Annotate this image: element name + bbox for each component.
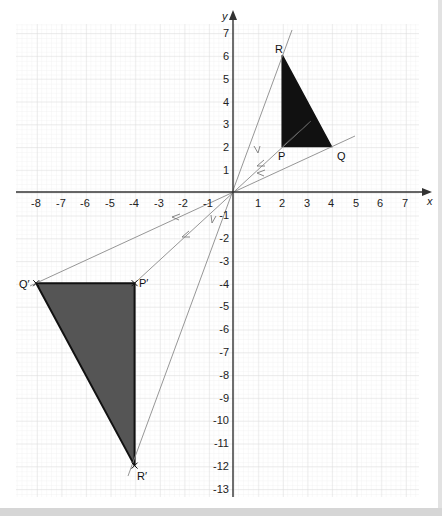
svg-text:-6: -6 [219, 323, 229, 335]
y-axis-arrow-icon [229, 10, 237, 20]
svg-text:-13: -13 [213, 483, 229, 495]
page-edge-bottom [0, 508, 442, 516]
coordinate-grid-diagram: x y -8 -7 -6 -5 -4 -3 -2 -1 1 2 3 4 5 6 … [0, 0, 442, 516]
svg-text:3: 3 [304, 197, 310, 209]
svg-text:-3: -3 [154, 197, 164, 209]
svg-text:7: 7 [223, 27, 229, 39]
svg-text:4: 4 [223, 96, 229, 108]
svg-text:1: 1 [223, 164, 229, 176]
svg-text:-2: -2 [219, 232, 229, 244]
svg-text:5: 5 [223, 73, 229, 85]
vertex-label-R: R [275, 43, 283, 55]
svg-text:-9: -9 [219, 392, 229, 404]
vertex-label-Q: Q [337, 150, 346, 162]
vertex-label-P-image: P′ [139, 277, 148, 289]
svg-text:-5: -5 [105, 197, 115, 209]
svg-text:-5: -5 [219, 300, 229, 312]
vertex-label-Q-image: Q′ [19, 278, 30, 290]
svg-text:-2: -2 [178, 197, 188, 209]
svg-text:2: 2 [279, 197, 285, 209]
page-edge-right [438, 0, 442, 516]
svg-text:-7: -7 [56, 197, 66, 209]
svg-text:-11: -11 [214, 437, 229, 449]
svg-text:-8: -8 [31, 197, 41, 209]
svg-text:-7: -7 [219, 346, 229, 358]
svg-text:-10: -10 [213, 414, 229, 426]
svg-text:-3: -3 [219, 255, 229, 267]
svg-text:5: 5 [353, 197, 359, 209]
svg-text:6: 6 [377, 197, 383, 209]
svg-text:2: 2 [223, 141, 229, 153]
svg-text:-6: -6 [80, 197, 90, 209]
svg-text:-1: -1 [203, 197, 213, 209]
svg-text:7: 7 [402, 197, 408, 209]
svg-text:-12: -12 [213, 460, 229, 472]
x-axis-label: x [426, 195, 433, 207]
svg-text:-8: -8 [219, 369, 229, 381]
y-axis-label: y [221, 10, 229, 22]
grid [16, 24, 419, 497]
svg-text:-4: -4 [129, 197, 139, 209]
svg-text:3: 3 [223, 118, 229, 130]
vertex-label-R-image: R′ [137, 470, 147, 482]
svg-text:-4: -4 [219, 278, 229, 290]
svg-text:-1: -1 [219, 209, 229, 221]
svg-text:4: 4 [328, 197, 334, 209]
svg-text:6: 6 [223, 50, 229, 62]
svg-text:1: 1 [255, 197, 261, 209]
vertex-label-P: P [278, 150, 285, 162]
